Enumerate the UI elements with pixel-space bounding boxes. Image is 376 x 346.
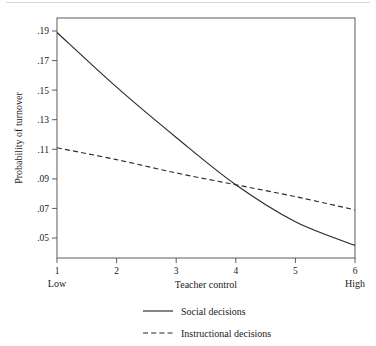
x-tick-label: 5 — [293, 266, 298, 276]
x-axis-high-label: High — [345, 278, 365, 289]
y-tick-label: .09 — [37, 174, 49, 184]
x-tick-label: 6 — [353, 266, 358, 276]
x-tick-label: 4 — [233, 266, 238, 276]
x-tick-label: 2 — [114, 266, 119, 276]
series-line-instructional-decisions — [57, 148, 355, 210]
y-tick-label: .19 — [37, 26, 49, 36]
x-axis-ticks — [57, 258, 355, 263]
plot-area-frame — [57, 18, 355, 258]
y-tick-label: .17 — [37, 56, 49, 66]
y-axis-ticks — [52, 31, 57, 238]
turnover-probability-chart: .19 .17 .15 .13 .11 .09 .07 .05 Probabil… — [0, 0, 376, 346]
chart-svg: .19 .17 .15 .13 .11 .09 .07 .05 Probabil… — [0, 0, 376, 346]
x-axis-low-label: Low — [48, 278, 67, 289]
y-axis-title: Probability of turnover — [13, 92, 24, 184]
y-axis-tick-labels: .19 .17 .15 .13 .11 .09 .07 .05 — [37, 26, 49, 243]
legend-label-social-decisions: Social decisions — [181, 306, 246, 317]
chart-legend: Social decisions Instructional decisions — [143, 306, 271, 339]
y-tick-label: .05 — [37, 233, 49, 243]
x-axis-tick-labels: 1 2 3 4 5 6 — [55, 266, 358, 276]
x-axis-title: Teacher control — [175, 279, 238, 290]
y-tick-label: .13 — [37, 115, 49, 125]
x-tick-label: 1 — [55, 266, 60, 276]
y-tick-label: .15 — [37, 86, 49, 96]
y-tick-label: .11 — [37, 145, 49, 155]
series-line-social-decisions — [57, 32, 355, 245]
x-tick-label: 3 — [174, 266, 179, 276]
y-tick-label: .07 — [37, 204, 49, 214]
legend-label-instructional-decisions: Instructional decisions — [181, 328, 271, 339]
